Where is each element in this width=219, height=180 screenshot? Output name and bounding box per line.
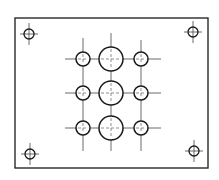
corner-hole-bottom-left xyxy=(21,143,39,165)
grid-hole-r2-c1 xyxy=(99,116,123,140)
grid-hole-r0-c0 xyxy=(76,52,90,66)
corner-hole-top-right xyxy=(184,21,202,43)
grid-hole-r0-c1 xyxy=(99,47,123,71)
technical-drawing xyxy=(0,0,219,180)
grid-hole-r1-c1 xyxy=(99,81,123,105)
grid-hole-r2-c2 xyxy=(134,121,148,135)
grid-hole-r0-c2 xyxy=(134,52,148,66)
grid-holes-group xyxy=(76,47,148,140)
corner-hole-bottom-right xyxy=(185,140,203,162)
corner-hole-top-left xyxy=(20,23,38,45)
plate-drawing-svg xyxy=(0,0,219,180)
grid-hole-r2-c0 xyxy=(76,121,90,135)
grid-hole-r1-c2 xyxy=(134,86,148,100)
grid-hole-r1-c0 xyxy=(76,86,90,100)
